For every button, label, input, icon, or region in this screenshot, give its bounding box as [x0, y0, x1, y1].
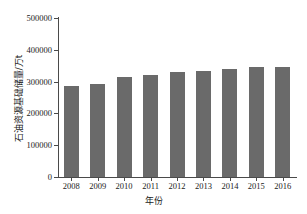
y-tick-mark — [54, 82, 58, 83]
bar — [196, 71, 211, 177]
bar — [249, 67, 264, 177]
bar — [170, 72, 185, 177]
bar — [143, 75, 158, 177]
plot-area: 0100000200000300000400000500000 20082009… — [58, 18, 296, 177]
x-tick-label: 2016 — [263, 181, 303, 191]
bar — [117, 77, 132, 177]
y-tick-mark — [54, 18, 58, 19]
y-tick-label: 200000 — [4, 108, 52, 118]
y-tick-label: 500000 — [4, 13, 52, 23]
bar — [222, 69, 237, 177]
y-tick-mark — [54, 177, 58, 178]
y-tick-label: 300000 — [4, 77, 52, 87]
y-tick-label: 100000 — [4, 140, 52, 150]
x-axis-title: 年份 — [0, 194, 307, 207]
y-tick-mark — [54, 113, 58, 114]
y-tick-mark — [54, 145, 58, 146]
bar-chart: 石油资源基础储量/万t 0100000200000300000400000500… — [0, 0, 307, 214]
y-tick-label: 0 — [4, 172, 52, 182]
bar — [90, 84, 105, 177]
y-tick-mark — [54, 50, 58, 51]
bar — [64, 86, 79, 177]
bar — [275, 67, 290, 177]
y-tick-label: 400000 — [4, 45, 52, 55]
